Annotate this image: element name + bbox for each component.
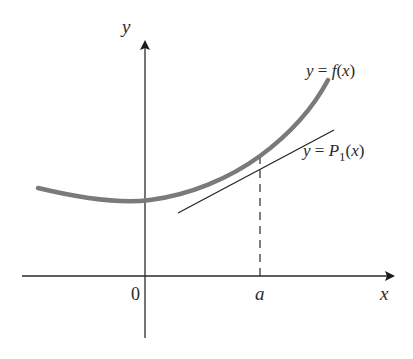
y-axis-label: y [120, 16, 131, 37]
curve-f-label: y = f(x) [304, 61, 355, 80]
tangent-label-lhs: y [301, 141, 311, 160]
curve-f [38, 80, 328, 201]
curve-f-label-close: ) [350, 61, 356, 80]
tangent-p1-label: y = P1(x) [301, 141, 364, 164]
origin-label: 0 [131, 284, 140, 304]
tangent-label-eq: = [311, 141, 329, 160]
x-axis-label: x [379, 283, 389, 304]
diagram: y x 0 a y = f(x) y = P1(x) [0, 0, 413, 359]
curve-f-label-lhs: y [304, 61, 314, 80]
tangent-label-name: P [328, 141, 339, 160]
tangent-label-close: ) [359, 141, 365, 160]
curve-f-label-eq: = [314, 61, 332, 80]
a-label: a [255, 283, 265, 304]
